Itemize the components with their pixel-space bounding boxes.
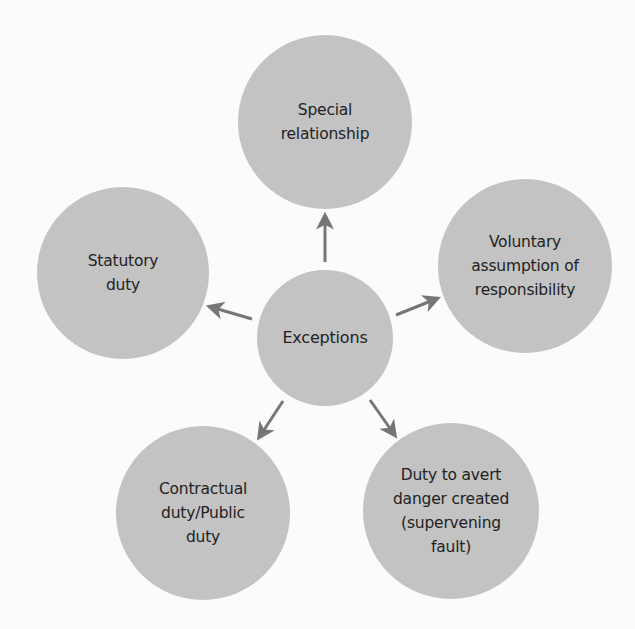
node-special-relationship: Special relationship — [238, 35, 412, 209]
arrow-to-duty-to-avert-danger — [370, 400, 394, 434]
exceptions-diagram: Exceptions Special relationship Voluntar… — [0, 0, 635, 629]
node-duty-to-avert-danger: Duty to avert danger created (supervenin… — [363, 423, 539, 599]
node-label: Special relationship — [281, 98, 370, 146]
node-label: Voluntary assumption of responsibility — [471, 230, 578, 302]
node-statutory-duty: Statutory duty — [37, 187, 209, 359]
arrow-to-voluntary-assumption — [396, 299, 436, 315]
center-node-exceptions: Exceptions — [257, 270, 393, 406]
node-voluntary-assumption: Voluntary assumption of responsibility — [438, 179, 612, 353]
center-node-label: Exceptions — [282, 326, 367, 350]
arrow-to-statutory-duty — [211, 307, 252, 319]
node-label: Duty to avert danger created (supervenin… — [393, 463, 509, 559]
node-contractual-public-duty: Contractual duty/Public duty — [116, 426, 290, 600]
arrow-to-contractual-public-duty — [260, 401, 283, 436]
node-label: Contractual duty/Public duty — [159, 477, 247, 549]
node-label: Statutory duty — [88, 249, 159, 297]
